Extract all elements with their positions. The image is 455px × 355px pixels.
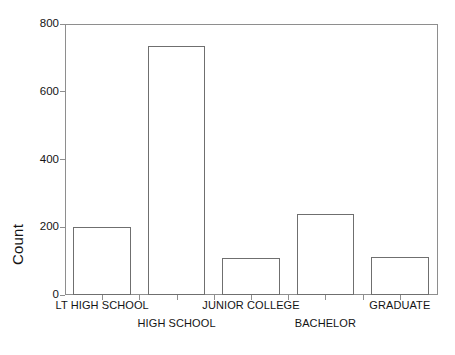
x-axis-tick [177,295,178,300]
y-axis-tick-label: 800 [19,18,59,30]
y-axis-tick-label: 400 [19,154,59,166]
x-axis-tick-label: JUNIOR COLLEGE [202,299,299,311]
x-axis-tick [325,295,326,300]
x-axis-tick-label: HIGH SCHOOL [138,317,216,329]
bar-chart: Count 0200400600800 LT HIGH SCHOOLHIGH S… [0,0,455,355]
x-axis-tick-label: GRADUATE [369,299,430,311]
x-axis-tick-label: LT HIGH SCHOOL [56,299,149,311]
y-axis-tick-label: 200 [19,221,59,233]
y-axis-tick [60,227,65,228]
y-axis-line [65,24,66,295]
bar [371,257,429,295]
bar [222,258,280,295]
y-axis-tick-label: 0 [19,289,59,301]
y-axis-tick-label: 600 [19,86,59,98]
plot-frame-top [65,24,438,25]
y-axis-tick [60,24,65,25]
y-axis-tick [60,295,65,296]
plot-area [65,24,437,295]
bar [73,227,131,295]
plot-frame-right [437,24,438,295]
bar [148,46,206,295]
x-axis-tick [363,295,364,300]
y-axis-tick [60,159,65,160]
y-axis-title: Count [9,210,26,280]
bar [297,214,355,295]
y-axis-tick [60,91,65,92]
x-axis-tick-label: BACHELOR [295,317,356,329]
